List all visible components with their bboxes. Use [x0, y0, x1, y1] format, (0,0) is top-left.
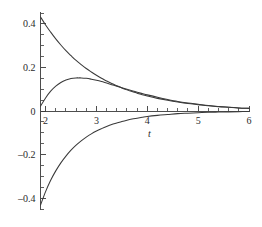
x-axis-tick-label: 2: [43, 115, 48, 126]
curve-middle-hump: [41, 78, 250, 109]
y-axis-tick-label: 0.4: [23, 18, 36, 29]
y-axis-tick-label: 0: [31, 106, 36, 117]
plot-figure: 23456 –0.4–0.200.20.4 t: [0, 0, 262, 227]
y-axis-major-ticks: [41, 24, 46, 198]
x-axis-tick-label: 5: [196, 115, 201, 126]
y-axis-tick-labels: –0.4–0.200.20.4: [17, 18, 36, 203]
y-axis-tick-label: 0.2: [23, 62, 36, 73]
x-axis-tick-label: 3: [94, 115, 99, 126]
x-axis-tick-label: 6: [247, 115, 252, 126]
y-axis-tick-label: –0.2: [17, 149, 36, 160]
y-axis-tick-label: –0.4: [17, 193, 36, 204]
x-axis-label: t: [148, 128, 151, 139]
plot-canvas: 23456 –0.4–0.200.20.4 t: [0, 0, 262, 227]
